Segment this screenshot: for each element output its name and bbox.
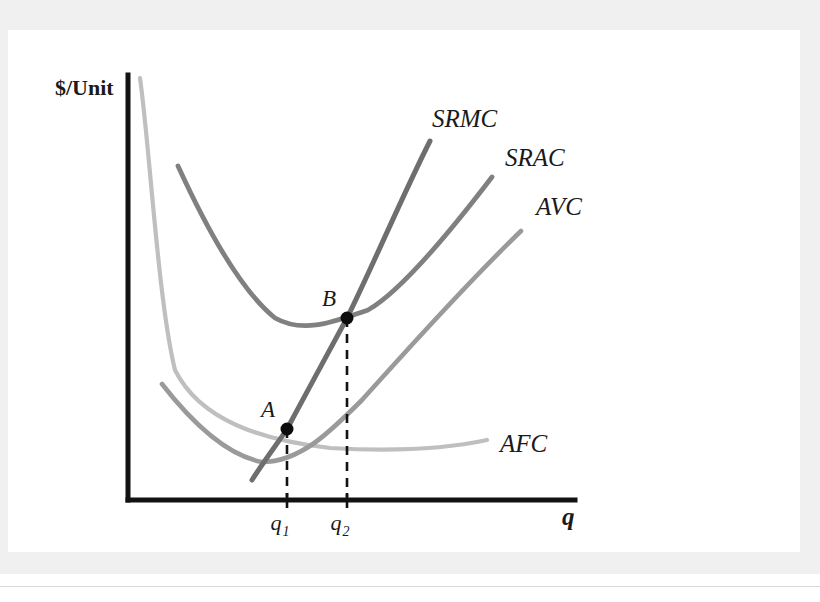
x-axis-label: q [562,503,575,530]
point-a-dot [281,423,294,436]
point-a-label: A [259,397,276,422]
tick-label-q2: q2 [331,510,350,539]
curve-avc [162,231,521,462]
curve-label-srmc: SRMC [432,105,498,132]
figure-page: A B SRMC SRAC AVC AFC $/Unit q q1 q2 [0,0,820,602]
tick-label-q1-sub: 1 [283,524,290,539]
tick-label-q2-sub: 2 [343,524,350,539]
point-b-dot [341,312,354,325]
cost-curves-figure: A B SRMC SRAC AVC AFC $/Unit q q1 q2 [0,0,820,602]
curve-label-avc: AVC [534,193,582,220]
y-axis-label: $/Unit [55,75,114,100]
curve-label-afc: AFC [498,430,548,457]
tick-label-q1-base: q [271,510,282,535]
point-b-label: B [322,286,336,311]
tick-label-q2-base: q [331,510,342,535]
curve-srmc [252,141,430,480]
tick-label-q1: q1 [271,510,290,539]
curve-afc [140,78,487,450]
curve-label-srac: SRAC [505,144,565,171]
